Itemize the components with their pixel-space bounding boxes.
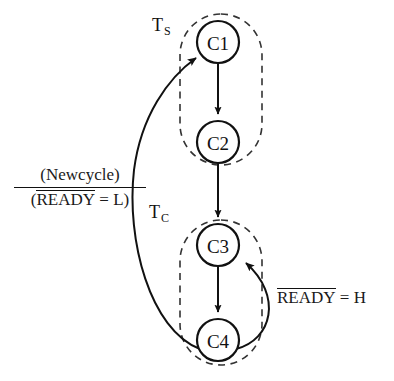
- ready-overline-low: READY: [36, 190, 95, 209]
- equals-l-text: = L): [95, 190, 129, 209]
- ready-overline-high: READY: [277, 288, 336, 307]
- group-label-ts: T: [152, 15, 163, 35]
- edge-label-newcycle-numerator: (Newcycle): [6, 165, 154, 186]
- state-label-c1: C1: [207, 33, 229, 54]
- group-label-tc-subscript: C: [161, 211, 169, 225]
- edge-label-newcycle-denominator: (READY = L): [6, 190, 154, 210]
- edge-label-newcycle: (Newcycle) (READY = L): [6, 165, 154, 210]
- state-label-c4: C4: [207, 331, 230, 352]
- edge-label-ready-high: READY = H: [277, 288, 366, 308]
- group-label-ts-subscript: S: [164, 24, 171, 38]
- fraction-bar: [14, 187, 146, 188]
- state-label-c2: C2: [207, 133, 229, 154]
- ready-high-line: READY = H: [277, 288, 366, 307]
- state-label-c3: C3: [207, 236, 229, 257]
- state-diagram: C1 C2 C3 C4 T S T C (Newcycle) (READY = …: [0, 0, 394, 381]
- equals-h-text: = H: [336, 288, 366, 307]
- transition-c4-c3: [236, 263, 269, 349]
